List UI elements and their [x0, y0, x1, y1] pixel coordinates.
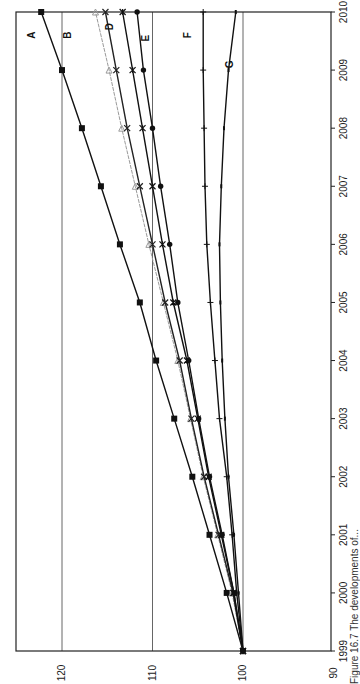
series-b: [92, 9, 246, 654]
year-tick-label: 2007: [338, 175, 349, 198]
year-tick-label: 2009: [338, 59, 349, 82]
plot-frame: [16, 12, 331, 651]
series-c: [102, 9, 246, 654]
series-lines: [38, 9, 246, 654]
year-tick-label: 2000: [338, 581, 349, 604]
value-tick-label: 90: [328, 667, 339, 679]
year-tick-label: 2003: [338, 407, 349, 430]
series-label: A: [26, 32, 37, 39]
series-label: F: [182, 32, 193, 38]
figure-caption: Figure 16.7 The developments of...: [349, 529, 360, 684]
series-e: [134, 9, 245, 653]
year-tick-label: 2001: [338, 523, 349, 546]
year-tick-label: 2006: [338, 233, 349, 256]
series-a: [38, 9, 246, 654]
series-label: G: [224, 60, 235, 68]
value-tick-label: 100: [237, 664, 248, 681]
year-tick-label: 2008: [338, 117, 349, 140]
year-tick-label: 2002: [338, 465, 349, 488]
series-label: B: [62, 32, 73, 39]
value-tick-label: 110: [147, 665, 158, 681]
series-g: [218, 10, 244, 653]
series-label: E: [140, 34, 151, 41]
year-tick-label: 2005: [338, 291, 349, 314]
series-label: D: [104, 23, 115, 30]
year-tick-label: 2004: [338, 349, 349, 372]
year-tick-label: 2010: [338, 0, 349, 23]
year-tick-label: 1999: [338, 639, 349, 662]
value-tick-label: 120: [56, 664, 67, 681]
